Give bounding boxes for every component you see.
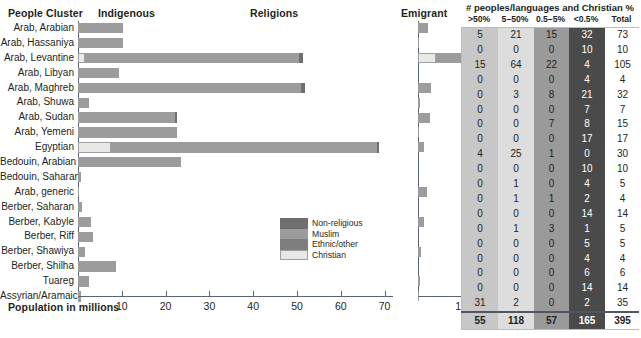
table-cell: 21 <box>498 28 534 43</box>
legend-item: Non-religious <box>280 218 363 229</box>
emigrant-segment-muslim <box>418 127 419 137</box>
table-cell: 4 <box>569 73 605 88</box>
people-cluster-label: Berber, Shilha <box>0 259 78 274</box>
legend-label: Ethnic/other <box>312 239 358 250</box>
table-cell: 7 <box>569 103 605 118</box>
legend-label: Muslim <box>312 229 339 240</box>
bar-segment-muslim <box>80 112 175 122</box>
table-cell: 14 <box>569 207 605 222</box>
people-cluster-label: Arab, Maghreb <box>0 81 78 96</box>
emigrant-segment-muslim <box>418 113 430 123</box>
table-cell: 5 <box>605 177 640 192</box>
header-emigrant: Emigrant <box>401 7 447 19</box>
header-indigenous: Indigenous <box>98 7 155 19</box>
emigrant-segment-muslim <box>418 217 424 227</box>
emigrant-bar-row <box>418 185 460 200</box>
people-cluster-label: Arab, generic <box>0 185 78 200</box>
bar-segment-nonreligious <box>377 142 379 152</box>
axis-tick <box>209 291 210 296</box>
bar-segment-muslim <box>78 98 89 108</box>
bar-segment-nonreligious <box>175 112 177 122</box>
christian-percent-table: # peoples/languages and Christian % >50%… <box>459 0 641 338</box>
table-cell: 0 <box>534 281 569 296</box>
emigrant-bar-row <box>418 170 460 185</box>
table-cell: 4 <box>569 252 605 267</box>
people-cluster-label: Arab, Libyan <box>0 66 78 81</box>
table-cell: 73 <box>605 28 640 43</box>
table-total-cell: 165 <box>569 314 605 329</box>
table-total-cell: 395 <box>605 314 640 329</box>
table-cell: 0 <box>462 192 498 207</box>
people-cluster-label: Berber, Riff <box>0 229 78 244</box>
table-cell: 6 <box>605 266 640 281</box>
table-cell: 7 <box>534 117 569 132</box>
bar-segment-muslim <box>85 53 299 63</box>
table-cell: 17 <box>569 132 605 147</box>
table-cell: 0 <box>534 132 569 147</box>
table-cell: 0 <box>462 103 498 118</box>
indigenous-bar-row <box>78 51 393 66</box>
people-cluster-label: Berber, Saharan <box>0 200 78 215</box>
table-cell: 3 <box>534 222 569 237</box>
table-cell: 2 <box>569 192 605 207</box>
bar-segment-muslim <box>78 247 85 257</box>
table-cell: 0 <box>498 103 534 118</box>
table-cell: 0 <box>498 281 534 296</box>
emigrant-bar-row <box>418 215 460 230</box>
table-cell: 10 <box>569 43 605 58</box>
emigrant-bar-row <box>418 110 460 125</box>
axis-tick-label: 30 <box>204 300 216 312</box>
table-cell: 32 <box>605 88 640 103</box>
bar-segment-muslim <box>78 23 123 33</box>
table-cell: 15 <box>462 58 498 73</box>
legend-item: Christian <box>280 250 363 261</box>
table-cell: 0 <box>462 162 498 177</box>
indigenous-bar-row <box>78 125 393 140</box>
table-cell: 5 <box>605 222 640 237</box>
table-cell: 5 <box>462 28 498 43</box>
table-column-header: >50% <box>461 14 497 24</box>
indigenous-bar-row <box>78 81 393 96</box>
table-title: # peoples/languages and Christian % <box>459 2 641 13</box>
bar-segment-muslim <box>78 232 93 242</box>
table-total-cell: 57 <box>534 314 569 329</box>
table-cell: 0 <box>462 43 498 58</box>
table-cell: 4 <box>605 252 640 267</box>
table-cell: 2 <box>569 296 605 311</box>
people-cluster-label: Arab, Hassaniya <box>0 36 78 51</box>
legend-label: Non-religious <box>312 218 363 229</box>
indigenous-bar-row <box>78 21 393 36</box>
table-cell: 0 <box>498 43 534 58</box>
bar-segment-muslim <box>78 83 301 93</box>
table-cell: 1 <box>498 192 534 207</box>
table-cell: 35 <box>605 296 640 311</box>
bar-segment-muslim <box>78 217 91 227</box>
table-cell: 0 <box>462 281 498 296</box>
legend-swatch-non-religious <box>280 218 308 229</box>
table-cell: 0 <box>534 103 569 118</box>
indigenous-bar-row <box>78 66 393 81</box>
table-cell: 0 <box>462 237 498 252</box>
table-cell: 0 <box>462 73 498 88</box>
people-cluster-label: Arab, Levantine <box>0 51 78 66</box>
table-cell: 0 <box>462 222 498 237</box>
bar-segment-muslim <box>111 142 377 152</box>
axis-tick <box>122 291 123 296</box>
table-cell: 0 <box>462 177 498 192</box>
table-cell: 14 <box>605 281 640 296</box>
table-cell: 0 <box>498 237 534 252</box>
emigrant-bar-row <box>418 125 460 140</box>
emigrant-segment-christian <box>418 53 436 63</box>
table-cell: 14 <box>569 281 605 296</box>
emigrant-segment-muslim <box>418 276 420 286</box>
table-cell: 21 <box>569 88 605 103</box>
indigenous-bar-row <box>78 274 393 289</box>
emigrant-bar-row <box>418 81 460 96</box>
table-cell: 0 <box>498 73 534 88</box>
table-cell: 8 <box>534 88 569 103</box>
indigenous-bar-row <box>78 185 393 200</box>
table-cell: 105 <box>605 58 640 73</box>
table-total-cell: 55 <box>462 314 498 329</box>
legend-item: Ethnic/other <box>280 239 363 250</box>
table-cell: 0 <box>498 132 534 147</box>
